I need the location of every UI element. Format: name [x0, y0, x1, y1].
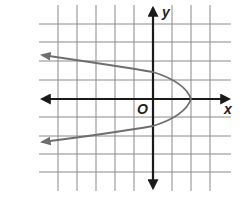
coordinate-plane: y x O [0, 0, 243, 201]
axes [42, 8, 229, 188]
origin-label: O [137, 101, 148, 117]
x-axis-label: x [223, 101, 233, 117]
y-axis-label: y [161, 4, 171, 20]
